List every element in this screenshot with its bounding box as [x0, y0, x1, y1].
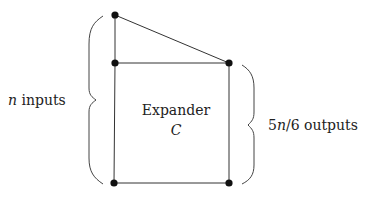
node-input-bottom — [110, 179, 117, 186]
left-edge — [114, 63, 115, 183]
node-output-bottom — [225, 179, 232, 186]
edges — [114, 15, 229, 183]
outputs-label: 5n/6 outputs — [268, 117, 358, 133]
nodes — [110, 11, 232, 186]
node-output-top — [225, 59, 232, 66]
left-brace-icon — [89, 16, 103, 184]
node-input-mid — [111, 59, 118, 66]
node-input-top — [111, 11, 118, 18]
inputs-label: n inputs — [8, 92, 66, 108]
expander-label: Expander — [142, 102, 211, 118]
right-brace-icon — [242, 65, 254, 184]
expander-diagram: n inputs Expander C 5n/6 outputs — [0, 0, 373, 199]
diagonal-edge — [115, 15, 229, 63]
expander-symbol: C — [171, 122, 182, 138]
